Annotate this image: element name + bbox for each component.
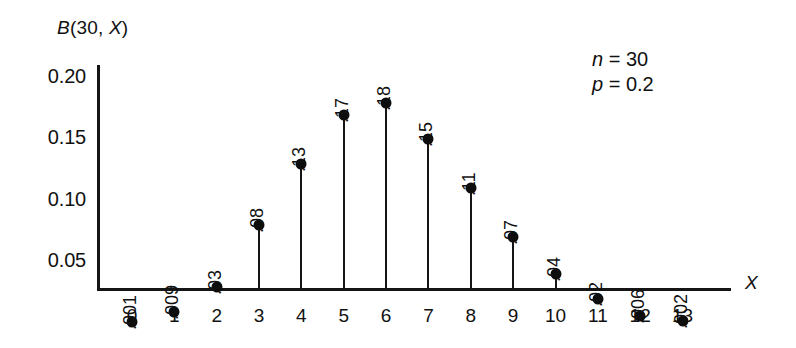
stem-value-label: .08 <box>247 208 268 233</box>
stem-value-label: .15 <box>416 122 437 147</box>
stem-value-label: .17 <box>332 98 353 123</box>
stem-value-label: .03 <box>205 270 226 295</box>
stem-line <box>343 115 345 290</box>
binomial-stem-chart: B(30, X) X 0.050.100.150.20 012345678910… <box>0 0 796 348</box>
stem-value-label: .001 <box>120 295 141 330</box>
parameter-annotation-row: p = 0.2 <box>592 72 654 97</box>
stem-value-label: .07 <box>501 220 522 245</box>
stem-value-label: .02 <box>586 282 607 307</box>
stem-line <box>470 188 472 289</box>
stem-value-label: .13 <box>289 147 310 172</box>
stem-value-label: .11 <box>459 173 480 197</box>
parameter-annotation: n = 30p = 0.2 <box>592 47 654 97</box>
stem-value-label: .04 <box>544 257 565 282</box>
stem-value-label: .009 <box>162 285 183 320</box>
parameter-symbol: p <box>592 73 603 95</box>
stem-series: .001.009.03.08.13.17.18.15.11.07.04.02.0… <box>0 0 796 348</box>
stem-line <box>258 225 260 289</box>
stem-line <box>512 237 514 289</box>
stem-line <box>300 164 302 290</box>
stem-value-label: .18 <box>374 86 395 111</box>
parameter-annotation-row: n = 30 <box>592 47 654 72</box>
stem-line <box>427 139 429 289</box>
parameter-symbol: n <box>592 48 603 70</box>
parameter-value: 0.2 <box>626 73 654 95</box>
stem-value-label: .002 <box>671 294 692 329</box>
parameter-equals: = <box>603 73 626 95</box>
parameter-value: 30 <box>626 48 648 70</box>
parameter-equals: = <box>603 48 626 70</box>
stem-value-label: .006 <box>628 289 649 324</box>
stem-line <box>385 103 387 290</box>
